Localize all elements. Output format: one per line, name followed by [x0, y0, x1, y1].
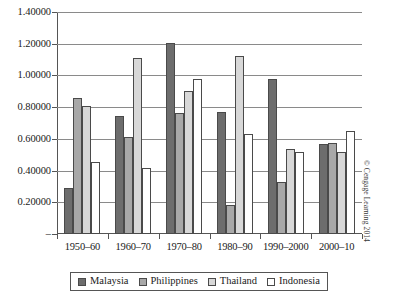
bar-group	[209, 12, 260, 234]
bar	[217, 112, 226, 234]
bar	[346, 131, 355, 234]
bar	[193, 79, 202, 234]
bar	[91, 162, 100, 234]
legend-label: Indonesia	[279, 276, 320, 287]
x-tick-mark	[210, 234, 211, 239]
x-axis-tick-label: 2000–10	[311, 240, 362, 256]
bar-group	[260, 12, 311, 234]
bar	[115, 116, 124, 234]
bar-group	[311, 12, 362, 234]
bar	[73, 98, 82, 234]
x-tick-mark	[108, 234, 109, 239]
y-axis-tick-label: 1.20000	[0, 39, 51, 50]
bar-group	[57, 12, 108, 234]
legend-label: Malaysia	[90, 276, 129, 287]
bar	[295, 152, 304, 234]
chart-legend: MalaysiaPhilippinesThailandIndonesia	[70, 272, 328, 291]
bar	[319, 144, 328, 234]
y-axis-tick-label: 0.60000	[0, 134, 51, 145]
bar	[244, 134, 253, 234]
bar	[337, 152, 346, 234]
bar	[226, 205, 235, 234]
bar	[142, 168, 151, 234]
y-axis-tick-label: –	[0, 229, 51, 240]
y-axis-tick-label: 0.40000	[0, 166, 51, 177]
legend-item[interactable]: Philippines	[139, 276, 198, 287]
plot-area	[57, 12, 362, 234]
legend-item[interactable]: Thailand	[208, 276, 257, 287]
bar	[124, 137, 133, 234]
bar	[286, 149, 295, 234]
x-tick-mark	[260, 234, 261, 239]
legend-item[interactable]: Indonesia	[267, 276, 320, 287]
bar	[328, 143, 337, 234]
x-axis-tick-label: 1960–70	[108, 240, 159, 256]
x-axis-tick-label: 1980–90	[209, 240, 260, 256]
y-axis-tick-label: 0.20000	[0, 197, 51, 208]
bar-group	[159, 12, 210, 234]
x-axis-tick-label: 1950–60	[57, 240, 108, 256]
bar	[235, 56, 244, 234]
legend-swatch-icon	[267, 278, 275, 286]
bar	[184, 91, 193, 234]
x-tick-mark	[57, 234, 58, 239]
bar	[175, 113, 184, 234]
bar-group	[108, 12, 159, 234]
bar	[277, 182, 286, 234]
x-axis-tick-label: 1990–2000	[260, 240, 311, 256]
bar	[82, 106, 91, 234]
legend-swatch-icon	[78, 278, 86, 286]
x-tick-mark	[159, 234, 160, 239]
legend-swatch-icon	[139, 278, 147, 286]
x-tick-mark	[311, 234, 312, 239]
copyright-credit: © Cengage Learning 2014	[362, 160, 371, 242]
y-axis-tick-label: 1.40000	[0, 7, 51, 18]
bar	[133, 58, 142, 234]
x-axis-tick-label: 1970–80	[159, 240, 210, 256]
x-axis-labels: 1950–601960–701970–801980–901990–2000200…	[57, 240, 362, 256]
bar-groups	[57, 12, 362, 234]
y-axis-tick-label: 1.00000	[0, 70, 51, 81]
legend-item[interactable]: Malaysia	[78, 276, 129, 287]
bar	[166, 43, 175, 234]
legend-swatch-icon	[208, 278, 216, 286]
chart-figure: –0.200000.400000.600000.800001.000001.20…	[0, 0, 395, 303]
bar	[268, 79, 277, 234]
legend-label: Philippines	[151, 276, 198, 287]
y-axis-tick-label: 0.80000	[0, 102, 51, 113]
bar	[64, 188, 73, 234]
legend-label: Thailand	[220, 276, 257, 287]
